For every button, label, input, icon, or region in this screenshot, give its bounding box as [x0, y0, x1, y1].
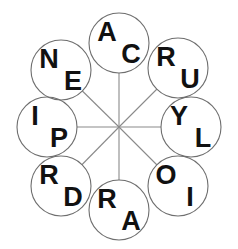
letter-circle-bottom-right[interactable]: OI	[148, 156, 208, 216]
letter-circle-right[interactable]: YL	[161, 97, 221, 157]
letter-wheel-puzzle: ACRUYLOIRARDIPNE	[0, 0, 238, 249]
letter-left-upper: I	[31, 101, 39, 131]
letter-top-lower: C	[121, 39, 141, 69]
wheel-diagram: ACRUYLOIRARDIPNE	[0, 0, 238, 249]
letter-top-right-upper: R	[156, 42, 176, 72]
letter-circle-bottom[interactable]: RA	[89, 180, 149, 240]
letter-circle-top-right[interactable]: RU	[148, 38, 208, 98]
letter-right-upper: Y	[170, 101, 188, 131]
letter-left-lower: P	[50, 123, 68, 153]
letter-circle-top-left[interactable]: NE	[31, 40, 91, 100]
letter-bottom-lower: A	[121, 206, 141, 236]
letter-bottom-upper: R	[97, 184, 117, 214]
letter-top-left-upper: N	[39, 44, 59, 74]
letter-top-left-lower: E	[64, 66, 82, 96]
letter-right-lower: L	[195, 123, 212, 153]
letter-circle-left[interactable]: IP	[17, 97, 77, 157]
letter-circle-bottom-left[interactable]: RD	[31, 156, 91, 216]
letter-bottom-right-lower: I	[186, 182, 194, 212]
letter-bottom-right-upper: O	[155, 160, 176, 190]
letter-bottom-left-lower: D	[63, 182, 83, 212]
letter-top-upper: A	[97, 17, 117, 47]
letter-bottom-left-upper: R	[39, 160, 59, 190]
letter-top-right-lower: U	[180, 64, 200, 94]
letter-circle-top[interactable]: AC	[89, 13, 149, 73]
